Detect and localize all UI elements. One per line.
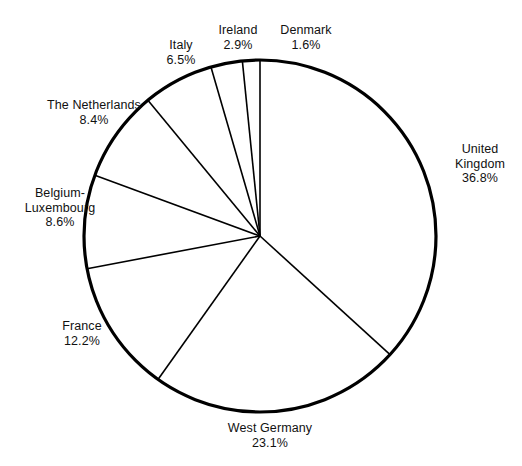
slice-value-united-kingdom: 36.8% [444,171,516,186]
pie-slice-divider [211,67,260,236]
pie-slice-divider [260,236,390,355]
slice-label-the-netherlands: The Netherlands 8.4% [38,98,150,127]
slice-value-ireland: 2.9% [208,38,268,53]
pie-slice-divider [242,61,260,236]
slice-label-united-kingdom-line1: United [444,142,516,157]
slice-label-the-netherlands-line1: The Netherlands [38,98,150,113]
slice-value-italy: 6.5% [156,53,206,68]
slice-value-denmark: 1.6% [272,38,340,53]
slice-value-france: 12.2% [43,334,121,349]
slice-label-west-germany: West Germany 23.1% [211,421,329,450]
slice-label-ireland: Ireland 2.9% [208,23,268,52]
slice-label-belgium-luxembourg-line2: Luxembourg [20,201,100,216]
slice-label-belgium-luxembourg: Belgium- Luxembourg 8.6% [20,186,100,230]
slice-label-france-line1: France [43,319,121,334]
slice-label-ireland-line1: Ireland [208,23,268,38]
slice-label-denmark-line1: Denmark [272,23,340,38]
pie-chart-figure: United Kingdom 36.8% West Germany 23.1% … [0,0,522,466]
pie-slice-divider [158,236,260,379]
slice-label-west-germany-line1: West Germany [211,421,329,436]
pie-slice-divider [87,236,260,269]
slice-label-denmark: Denmark 1.6% [272,23,340,52]
slice-label-united-kingdom-line2: Kingdom [444,157,516,172]
slice-label-italy-line1: Italy [156,38,206,53]
slice-value-belgium-luxembourg: 8.6% [20,215,100,230]
slice-label-france: France 12.2% [43,319,121,348]
slice-value-west-germany: 23.1% [211,436,329,451]
slice-label-italy: Italy 6.5% [156,38,206,67]
slice-value-the-netherlands: 8.4% [38,113,150,128]
pie-chart-graphic [0,0,522,466]
slice-label-belgium-luxembourg-line1: Belgium- [20,186,100,201]
slice-label-united-kingdom: United Kingdom 36.8% [444,142,516,186]
